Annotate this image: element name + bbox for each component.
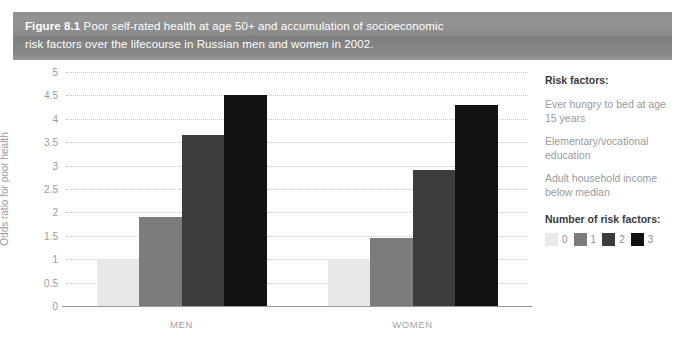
y-axis-label-wrapper: Odds ratio for poor health	[0, 72, 14, 306]
figure-number: Figure 8.1	[25, 20, 80, 32]
legend: 0123	[545, 233, 679, 246]
legend-label: 1	[591, 234, 597, 245]
y-axis-tick-label: 0.5	[16, 277, 58, 288]
x-axis-group-label: MEN	[170, 319, 193, 330]
legend-item: 1	[574, 233, 597, 246]
y-axis-tick-label: 4	[16, 113, 58, 124]
y-axis-tick-label: 4.5	[16, 90, 58, 101]
bar	[182, 135, 225, 306]
x-axis-group-label: WOMEN	[392, 319, 432, 330]
legend-item: 2	[602, 233, 625, 246]
legend-label: 3	[648, 234, 654, 245]
bar	[139, 217, 182, 306]
figure-panel: Figure 8.1 Poor self-rated health at age…	[0, 0, 689, 346]
legend-item: 0	[545, 233, 568, 246]
gridline	[66, 95, 528, 96]
risk-factor-item: Adult household income below median	[545, 172, 679, 199]
legend-label: 2	[619, 234, 625, 245]
y-axis-label: Odds ratio for poor health	[0, 132, 10, 245]
figure-title-banner: Figure 8.1 Poor self-rated health at age…	[13, 12, 672, 60]
bar	[328, 259, 371, 306]
y-axis-tick-label: 3	[16, 160, 58, 171]
bar	[370, 238, 413, 306]
y-axis-tick-label: 5	[16, 67, 58, 78]
risk-factor-item: Ever hungry to bed at age 15 years	[545, 98, 679, 125]
bar	[455, 105, 498, 306]
bar	[413, 170, 456, 306]
y-axis-tick-label: 3.5	[16, 137, 58, 148]
y-axis-tick-label: 0	[16, 301, 58, 312]
x-axis-line	[62, 306, 532, 307]
y-axis-tick-label: 1.5	[16, 230, 58, 241]
legend-swatch	[602, 233, 615, 246]
risk-factor-item: Elementary/vocational education	[545, 135, 679, 162]
gridline	[66, 72, 528, 73]
chart-plot-area	[66, 72, 528, 306]
side-panel: Risk factors: Ever hungry to bed at age …	[545, 74, 679, 246]
bar	[224, 95, 267, 306]
y-axis-tick-label: 1	[16, 254, 58, 265]
risk-factors-heading: Risk factors:	[545, 74, 679, 87]
legend-item: 3	[631, 233, 654, 246]
y-axis-tick-label: 2	[16, 207, 58, 218]
bar	[97, 259, 140, 306]
figure-title-text: Figure 8.1 Poor self-rated health at age…	[25, 18, 662, 53]
legend-swatch	[631, 233, 644, 246]
legend-heading: Number of risk factors:	[545, 213, 679, 226]
y-axis-tick-label: 2.5	[16, 184, 58, 195]
figure-caption: Poor self-rated health at age 50+ and ac…	[25, 20, 444, 50]
legend-label: 0	[562, 234, 568, 245]
legend-swatch	[545, 233, 558, 246]
legend-swatch	[574, 233, 587, 246]
